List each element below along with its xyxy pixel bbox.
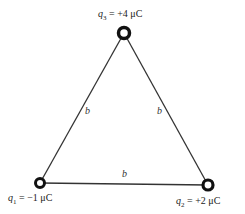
side-q1-q3 — [40, 33, 124, 183]
charge-q3-dot — [119, 28, 130, 39]
charge-value: = +2 μC — [187, 195, 220, 206]
charge-subscript: 2 — [181, 201, 185, 209]
charge-label-q2: q2 = +2 μC — [176, 195, 220, 209]
side-q1-q2 — [40, 183, 208, 185]
charge-subscript: 1 — [13, 198, 17, 206]
charge-subscript: 3 — [103, 14, 107, 22]
triangle-diagram — [0, 0, 245, 214]
side-label-right: b — [157, 105, 162, 116]
charge-value: = −1 μC — [19, 192, 52, 203]
charge-label-q3: q3 = +4 μC — [98, 8, 142, 22]
side-q2-q3 — [124, 33, 208, 185]
charge-q1-dot — [36, 179, 45, 188]
charge-q2-dot — [203, 180, 213, 190]
side-label-bottom: b — [122, 168, 127, 179]
charge-label-q1: q1 = −1 μC — [8, 192, 52, 206]
side-label-left: b — [85, 105, 90, 116]
charge-value: = +4 μC — [109, 8, 142, 19]
